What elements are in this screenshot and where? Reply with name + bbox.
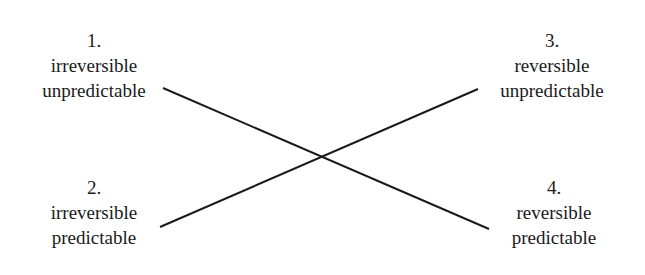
node-2-line1: irreversible — [24, 200, 164, 225]
node-2: 2. irreversible predictable — [24, 175, 164, 250]
node-4-line1: reversible — [484, 200, 624, 225]
node-4: 4. reversible predictable — [484, 175, 624, 250]
node-4-line2: predictable — [484, 225, 624, 250]
node-2-line2: predictable — [24, 225, 164, 250]
node-1: 1. irreversible unpredictable — [24, 28, 164, 103]
node-1-line2: unpredictable — [24, 78, 164, 103]
node-4-number: 4. — [484, 175, 624, 200]
node-3-number: 3. — [482, 28, 622, 53]
line-1-to-4 — [163, 88, 489, 229]
node-1-number: 1. — [24, 28, 164, 53]
node-1-line1: irreversible — [24, 53, 164, 78]
node-3-line2: unpredictable — [482, 78, 622, 103]
node-3: 3. reversible unpredictable — [482, 28, 622, 103]
node-2-number: 2. — [24, 175, 164, 200]
line-2-to-3 — [160, 89, 478, 227]
node-3-line1: reversible — [482, 53, 622, 78]
